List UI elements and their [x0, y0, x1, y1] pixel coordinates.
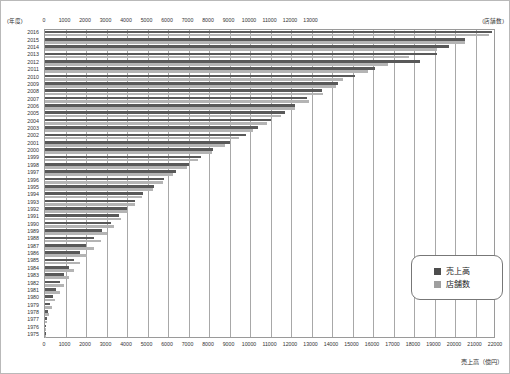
- axis-tick-label: 6000: [161, 341, 173, 347]
- year-label: 2005: [0, 110, 39, 117]
- bar-stores: [45, 196, 142, 199]
- year-label: 2003: [0, 125, 39, 132]
- bar-row: 1989: [45, 229, 494, 236]
- year-label: 1993: [0, 199, 39, 206]
- axis-tick-label: 19000: [426, 341, 440, 347]
- year-label: 2001: [0, 140, 39, 147]
- bar-row: 1979: [45, 302, 494, 309]
- year-label: 1997: [0, 169, 39, 176]
- axis-tick-label: 9000: [223, 341, 235, 347]
- bar-row: 1977: [45, 317, 494, 324]
- year-label: 1984: [0, 265, 39, 272]
- year-label: 1988: [0, 235, 39, 242]
- year-label: 1995: [0, 184, 39, 191]
- axis-tick-label: 7000: [182, 341, 194, 347]
- bar-stores: [45, 137, 239, 140]
- legend-label-sales: 売上高: [446, 267, 470, 276]
- axis-tick-label: 8000: [202, 341, 214, 347]
- year-label: 2006: [0, 103, 39, 110]
- bar-stores: [45, 93, 323, 96]
- year-label: 1991: [0, 213, 39, 220]
- bar-stores: [45, 78, 343, 81]
- bar-stores: [45, 63, 388, 66]
- bar-row: 2007: [45, 96, 494, 103]
- year-label: 1976: [0, 324, 39, 331]
- year-label: 2014: [0, 44, 39, 51]
- bar-stores: [45, 129, 253, 132]
- year-axis-label: (年度): [7, 17, 23, 25]
- bar-stores: [45, 299, 55, 302]
- bar-row: 2009: [45, 82, 494, 89]
- chart-legend: 売上高 店舗数: [411, 255, 503, 300]
- bar-stores: [45, 306, 52, 309]
- bar-row: 2008: [45, 89, 494, 96]
- year-label: 2010: [0, 74, 39, 81]
- bar-row: 1975: [45, 332, 494, 339]
- axis-tick-label: 21000: [467, 341, 481, 347]
- axis-tick-label: 12000: [283, 341, 297, 347]
- axis-tick-label: 16000: [365, 341, 379, 347]
- bar-stores: [45, 276, 69, 279]
- bar-stores: [45, 232, 107, 235]
- axis-tick-label: 11000: [262, 341, 276, 347]
- year-label: 2002: [0, 132, 39, 139]
- bar-row: 2006: [45, 104, 494, 111]
- bar-row: 2000: [45, 148, 494, 155]
- axis-tick-label: 18000: [406, 341, 420, 347]
- bar-row: 2012: [45, 59, 494, 66]
- bar-stores: [45, 218, 121, 221]
- legend-label-stores: 店舗数: [446, 280, 470, 289]
- axis-tick-label: 5000: [141, 17, 153, 23]
- bar-row: 1987: [45, 243, 494, 250]
- bar-row: 2003: [45, 126, 494, 133]
- bar-stores: [45, 115, 281, 118]
- year-label: 1989: [0, 228, 39, 235]
- bar-stores: [45, 85, 336, 88]
- bar-stores: [45, 203, 135, 206]
- axis-tick-label: 22000: [488, 341, 502, 347]
- legend-item-sales: 売上高: [434, 267, 502, 276]
- year-label: 1998: [0, 162, 39, 169]
- bar-stores: [45, 100, 309, 103]
- bar-stores: [45, 41, 465, 44]
- axis-tick-label: 12000: [283, 17, 297, 23]
- bar-row: 2013: [45, 52, 494, 59]
- year-label: 1990: [0, 221, 39, 228]
- axis-tick-label: 17000: [385, 341, 399, 347]
- bar-row: 2010: [45, 74, 494, 81]
- bar-stores: [45, 225, 114, 228]
- bar-stores: [45, 284, 64, 287]
- year-label: 2007: [0, 96, 39, 103]
- bar-stores: [45, 210, 128, 213]
- bar-stores: [45, 122, 267, 125]
- axis-tick-label: 5000: [141, 341, 153, 347]
- year-label: 2008: [0, 88, 39, 95]
- bar-stores: [45, 151, 212, 154]
- bar-row: 1993: [45, 199, 494, 206]
- year-label: 2013: [0, 51, 39, 58]
- year-label: 1992: [0, 206, 39, 213]
- legend-swatch-stores-icon: [434, 281, 441, 288]
- axis-tick-label: 6000: [161, 17, 173, 23]
- bar-stores: [45, 313, 49, 316]
- axis-tick-label: 14000: [324, 341, 338, 347]
- axis-tick-label: 1000: [59, 17, 71, 23]
- legend-swatch-sales-icon: [434, 268, 441, 275]
- bar-stores: [45, 144, 225, 147]
- bar-stores: [45, 70, 368, 73]
- year-label: 1975: [0, 331, 39, 338]
- bar-stores: [45, 335, 46, 338]
- year-label: 1987: [0, 243, 39, 250]
- axis-tick-label: 0: [43, 17, 46, 23]
- bar-row: 2016: [45, 30, 494, 37]
- axis-tick-label: 10000: [242, 17, 256, 23]
- bar-row: 1994: [45, 192, 494, 199]
- year-label: 2000: [0, 147, 39, 154]
- bar-row: 1997: [45, 170, 494, 177]
- year-label: 2009: [0, 81, 39, 88]
- axis-tick-label: 3000: [100, 17, 112, 23]
- bar-row: 1976: [45, 324, 494, 331]
- bar-stores: [45, 34, 489, 37]
- axis-tick-label: 3000: [100, 341, 112, 347]
- bar-stores: [45, 321, 47, 324]
